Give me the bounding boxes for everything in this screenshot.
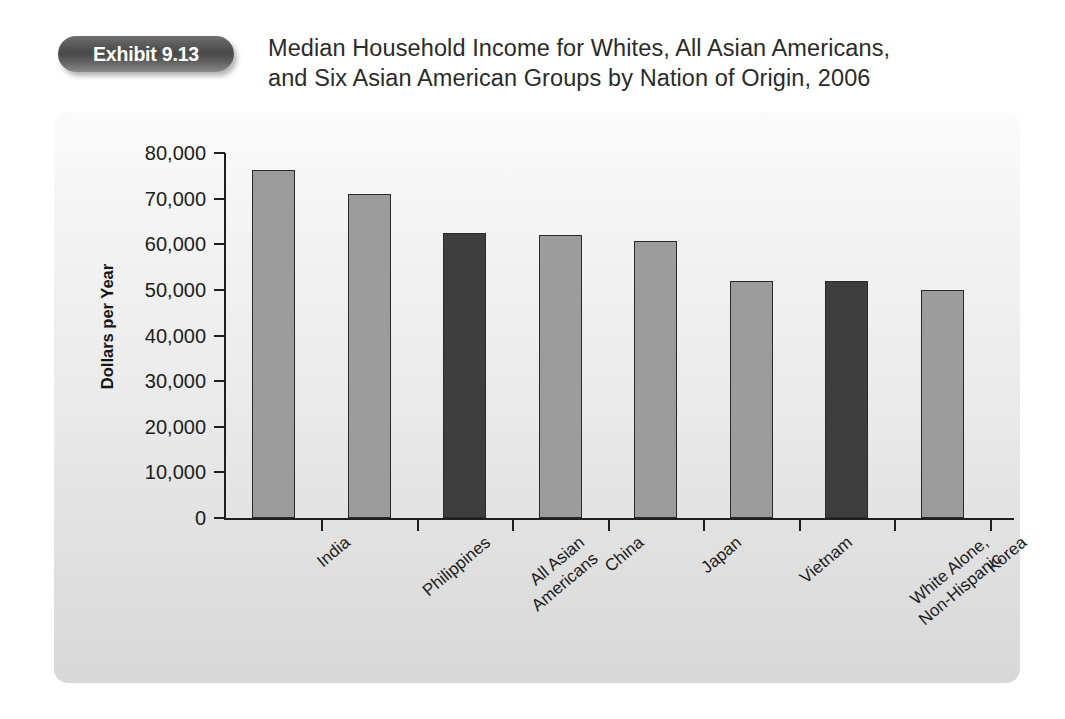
exhibit-badge-label: Exhibit 9.13	[93, 43, 199, 66]
y-axis-tick	[214, 198, 225, 200]
y-axis-tick-label: 10,000	[145, 461, 206, 484]
y-axis-tick-label: 50,000	[145, 279, 206, 302]
page-title: Median Household Income for Whites, All …	[268, 33, 1028, 93]
y-axis-tick	[214, 289, 225, 291]
x-axis-label: Vietnam	[796, 532, 857, 588]
page-title-line-2: and Six Asian American Groups by Nation …	[268, 63, 1028, 93]
x-axis-label-line: Philippines	[418, 532, 494, 601]
y-axis-tick-label: 20,000	[145, 416, 206, 439]
x-axis-tick	[703, 520, 705, 531]
x-axis-tick	[321, 520, 323, 531]
y-axis-tick	[214, 517, 225, 519]
y-axis-tick-label: 60,000	[145, 233, 206, 256]
x-axis-tick	[990, 520, 992, 531]
x-axis-label-line: India	[312, 532, 354, 572]
x-axis-label-line: Korea	[983, 532, 1031, 577]
bar	[825, 281, 868, 518]
bar	[921, 290, 964, 518]
x-axis-tick	[417, 520, 419, 531]
y-axis-title: Dollars per Year	[98, 237, 117, 417]
y-axis-tick	[214, 152, 225, 154]
bar	[634, 241, 677, 518]
y-axis-tick	[214, 380, 225, 382]
x-axis-tick	[512, 520, 514, 531]
x-axis-label: China	[600, 532, 648, 577]
x-axis-tick	[799, 520, 801, 531]
y-axis-tick-label: 30,000	[145, 370, 206, 393]
chart-panel: Dollars per Year 80,00070,00060,00050,00…	[54, 112, 1020, 683]
y-axis-tick-label: 80,000	[145, 142, 206, 165]
y-axis-tick	[214, 243, 225, 245]
y-axis-line	[224, 153, 226, 520]
exhibit-badge: Exhibit 9.13	[58, 36, 234, 72]
x-axis-tick	[608, 520, 610, 531]
y-axis-tick	[214, 471, 225, 473]
x-axis-label-line: China	[600, 532, 648, 577]
y-axis-tick-label: 0	[195, 507, 206, 530]
bar	[252, 170, 295, 518]
page-title-line-1: Median Household Income for Whites, All …	[268, 33, 1028, 63]
x-axis-label: Korea	[983, 532, 1031, 577]
bar	[348, 194, 391, 518]
x-axis-label: White Alone,Non-Hispanic	[900, 532, 1005, 630]
y-axis-tick	[214, 426, 225, 428]
bar	[443, 233, 486, 518]
x-axis-label-line: Vietnam	[796, 532, 857, 588]
x-axis-label-line: Japan	[696, 532, 745, 578]
bar-chart-plot: Dollars per Year 80,00070,00060,00050,00…	[54, 112, 1020, 683]
x-axis-label: Philippines	[418, 532, 494, 601]
x-axis-tick	[894, 520, 896, 531]
chart-header: Exhibit 9.13 Median Household Income for…	[0, 0, 1065, 112]
x-axis-label: All AsianAmericans	[513, 532, 602, 616]
y-axis-tick	[214, 335, 225, 337]
bar	[539, 235, 582, 518]
x-axis-label: India	[312, 532, 354, 572]
y-axis-tick-label: 40,000	[145, 325, 206, 348]
bar	[730, 281, 773, 518]
x-axis-label: Japan	[696, 532, 745, 578]
y-axis-tick-label: 70,000	[145, 188, 206, 211]
